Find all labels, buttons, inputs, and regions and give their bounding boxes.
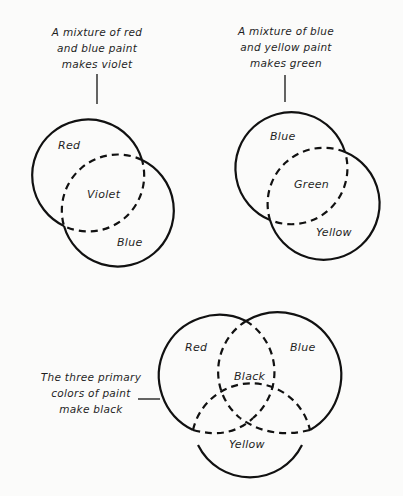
red-lower-boundary bbox=[193, 418, 253, 433]
black-label: Black bbox=[234, 370, 266, 383]
blue-label: Blue bbox=[290, 341, 316, 354]
red-label: Red bbox=[185, 341, 208, 354]
caption-line: A mixture of blue bbox=[237, 25, 334, 37]
blue-label: Blue bbox=[117, 236, 143, 249]
violet-label: Violet bbox=[87, 188, 121, 201]
red-circle-outline bbox=[32, 119, 142, 226]
caption-line: makes green bbox=[250, 57, 322, 69]
caption-line: The three primary bbox=[41, 371, 142, 383]
diagram-red-blue: A mixture of red and blue paint makes vi… bbox=[32, 26, 174, 267]
caption-line: make black bbox=[59, 403, 123, 415]
caption-line: makes violet bbox=[62, 58, 133, 70]
diagram-three-primaries: The three primary colors of paint make b… bbox=[41, 312, 341, 477]
diagram-blue-yellow: A mixture of blue and yellow paint makes… bbox=[235, 25, 379, 260]
caption-line: A mixture of red bbox=[51, 26, 143, 38]
red-label: Red bbox=[58, 139, 81, 152]
caption-line: and blue paint bbox=[57, 42, 138, 54]
caption-line: colors of paint bbox=[51, 387, 131, 399]
green-label: Green bbox=[294, 178, 329, 191]
paint-mixing-diagram: A mixture of red and blue paint makes vi… bbox=[0, 0, 403, 496]
yellow-label: Yellow bbox=[316, 226, 352, 239]
yellow-inner-boundary bbox=[193, 383, 310, 430]
blue-label: Blue bbox=[270, 130, 296, 143]
yellow-circle-outline bbox=[270, 152, 380, 260]
caption-line: and yellow paint bbox=[240, 41, 332, 53]
yellow-label: Yellow bbox=[229, 438, 265, 451]
blue-circle-outline bbox=[235, 112, 345, 220]
blue-circle-outline bbox=[64, 160, 174, 267]
